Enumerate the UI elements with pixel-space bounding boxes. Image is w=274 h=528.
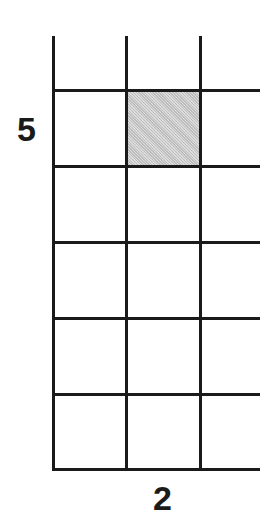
grid-horizontal-line-3 — [52, 241, 260, 244]
grid-horizontal-line-1 — [52, 89, 260, 92]
grid-vertical-line-1 — [52, 36, 55, 470]
grid-horizontal-line-4 — [52, 317, 260, 320]
grid-horizontal-line-5 — [52, 393, 260, 396]
column-label: 2 — [153, 481, 172, 515]
grid-vertical-line-2 — [125, 36, 128, 470]
grid-horizontal-line-6 — [52, 468, 260, 471]
grid-vertical-line-3 — [199, 36, 202, 470]
grid-horizontal-line-2 — [52, 165, 260, 168]
row-label: 5 — [17, 112, 36, 146]
shaded-cell — [127, 91, 200, 166]
